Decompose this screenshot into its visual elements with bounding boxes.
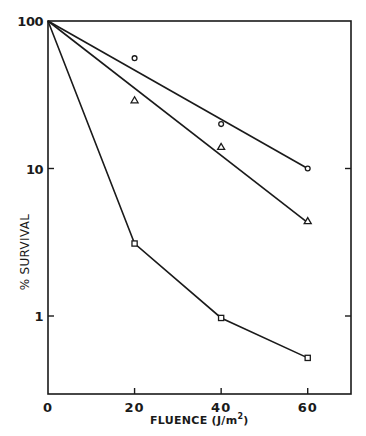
y-tick-label: 1 <box>34 309 43 324</box>
square-marker <box>305 355 310 360</box>
squares-line <box>48 21 308 358</box>
y-tick-label: 100 <box>17 14 43 29</box>
square-marker <box>132 241 137 246</box>
x-tick-label: 0 <box>43 400 53 415</box>
circle-marker <box>305 166 310 171</box>
circle-marker <box>132 56 137 61</box>
plot-frame <box>48 21 351 394</box>
series-lines <box>48 21 308 358</box>
tick-labels: 0204060100101 <box>17 14 317 415</box>
circle-marker <box>219 122 224 127</box>
survival-chart: 0204060100101 <box>0 0 366 436</box>
circles-line <box>48 21 308 169</box>
triangle-marker <box>131 97 138 103</box>
plot-border <box>48 21 351 394</box>
x-tick-label: 20 <box>125 400 145 415</box>
y-axis-label: % SURVIVAL <box>18 197 32 307</box>
square-marker <box>219 315 224 320</box>
series-markers <box>131 56 311 361</box>
triangle-marker <box>218 143 225 149</box>
x-tick-label: 60 <box>298 400 318 415</box>
triangle-marker <box>304 218 311 224</box>
x-axis-label: FLUENCE (J/m2) <box>150 412 249 427</box>
y-tick-label: 10 <box>26 162 44 177</box>
